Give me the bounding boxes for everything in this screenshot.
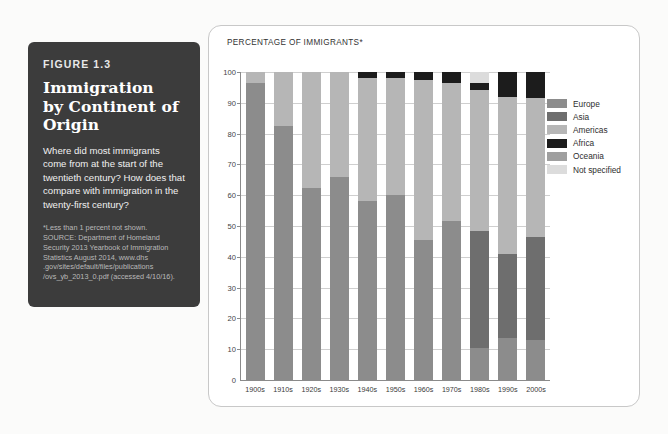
bar-segment-2000s-asia[interactable] [526, 237, 545, 340]
bar-segment-1910s-americas[interactable] [274, 72, 293, 126]
y-tickmark-20 [237, 318, 241, 319]
bar-1970s[interactable] [442, 72, 461, 380]
bar-segment-1960s-americas[interactable] [414, 80, 433, 240]
figure-description: Where did most immigrants come from at t… [43, 144, 185, 212]
bar-segment-1940s-americas[interactable] [358, 78, 377, 201]
y-axis-title: PERCENTAGE OF IMMIGRANTS* [227, 38, 363, 49]
legend-label-not-specified: Not specified [573, 165, 621, 175]
bar-segment-1930s-americas[interactable] [330, 72, 349, 177]
bar-1980s[interactable] [470, 72, 489, 380]
bar-segment-2000s-europe[interactable] [526, 340, 545, 380]
y-tick-label-0: 0 [232, 376, 236, 385]
bar-segment-1940s-europe[interactable] [358, 201, 377, 380]
figure-source-line-4: .gov/sites/default/files/publications [43, 262, 185, 272]
bar-segment-1930s-europe[interactable] [330, 177, 349, 380]
y-tickmark-90 [237, 103, 241, 104]
y-tickmark-30 [237, 288, 241, 289]
bar-segment-1960s-africa[interactable] [414, 72, 433, 80]
legend-swatch-africa [547, 139, 567, 148]
bar-segment-1900s-americas[interactable] [246, 72, 265, 83]
y-tick-label-40: 40 [228, 252, 236, 261]
bar-segment-1920s-europe[interactable] [302, 188, 321, 381]
y-tick-label-30: 30 [228, 283, 236, 292]
bar-1940s[interactable] [358, 72, 377, 380]
figure-title-line-0: Immigration [43, 79, 185, 98]
bar-1930s[interactable] [330, 72, 349, 380]
chart-card: PERCENTAGE OF IMMIGRANTS* 10203040506070… [208, 25, 640, 407]
bar-1900s[interactable] [246, 72, 265, 380]
bar-2000s[interactable] [526, 72, 545, 380]
figure-root: FIGURE 1.3 Immigrationby Continent ofOri… [0, 0, 668, 434]
y-tick-label-90: 90 [228, 98, 236, 107]
bar-segment-1980s-americas[interactable] [470, 90, 489, 230]
legend-item-europe[interactable]: Europe [547, 97, 621, 110]
bar-segment-1990s-asia[interactable] [498, 254, 517, 339]
bar-segment-1970s-europe[interactable] [442, 221, 461, 380]
legend-item-africa[interactable]: Africa [547, 137, 621, 150]
legend-label-oceania: Oceania [573, 151, 604, 161]
bar-segment-2000s-africa[interactable] [526, 72, 545, 98]
legend-label-americas: Americas [573, 125, 608, 135]
figure-source-line-5: /ovs_yb_2013_0.pdf (accessed 4/10/16). [43, 272, 185, 282]
y-tickmark-100 [237, 72, 241, 73]
bar-segment-1950s-europe[interactable] [386, 195, 405, 380]
y-tick-label-100: 100 [223, 68, 236, 77]
legend-swatch-not-specified [547, 165, 567, 174]
bar-segment-1920s-americas[interactable] [302, 72, 321, 188]
bar-segment-1980s-asia[interactable] [470, 231, 489, 348]
bar-1990s[interactable] [498, 72, 517, 380]
y-tickmark-60 [237, 195, 241, 196]
figure-title: Immigrationby Continent ofOrigin [43, 79, 185, 135]
figure-number: FIGURE 1.3 [43, 58, 185, 70]
y-tickmark-40 [237, 257, 241, 258]
y-tickmark-50 [237, 226, 241, 227]
legend-item-asia[interactable]: Asia [547, 110, 621, 123]
y-tick-label-10: 10 [228, 345, 236, 354]
bar-segment-2000s-americas[interactable] [526, 98, 545, 237]
y-tickmark-70 [237, 164, 241, 165]
bar-segment-1980s-not-specified[interactable] [470, 72, 489, 83]
bar-1920s[interactable] [302, 72, 321, 380]
bar-segment-1970s-americas[interactable] [442, 83, 461, 222]
legend-item-oceania[interactable]: Oceania [547, 150, 621, 163]
y-tick-label-50: 50 [228, 222, 236, 231]
figure-source-line-2: Security 2013 Yearbook of Immigration [43, 243, 185, 253]
bar-segment-1950s-africa[interactable] [386, 72, 405, 78]
figure-caption-card: FIGURE 1.3 Immigrationby Continent ofOri… [28, 42, 200, 307]
bar-1960s[interactable] [414, 72, 433, 380]
legend-label-asia: Asia [573, 112, 589, 122]
bar-segment-1990s-europe[interactable] [498, 338, 517, 380]
plot-area: 1020304050607080901000 1900s1910s1920s19… [241, 72, 550, 380]
figure-source-note: *Less than 1 percent not shown.SOURCE: D… [43, 223, 185, 281]
bar-segment-1990s-americas[interactable] [498, 97, 517, 254]
figure-source-line-1: SOURCE: Department of Homeland [43, 233, 185, 243]
y-tick-label-20: 20 [228, 314, 236, 323]
figure-title-line-1: by Continent of [43, 98, 185, 117]
legend-swatch-europe [547, 99, 567, 108]
legend-swatch-oceania [547, 152, 567, 161]
legend-item-not-specified[interactable]: Not specified [547, 163, 621, 176]
y-tick-label-70: 70 [228, 160, 236, 169]
figure-source-line-3: Statistics August 2014, www.dhs [43, 253, 185, 263]
bar-segment-1940s-africa[interactable] [358, 72, 377, 78]
legend-label-europe: Europe [573, 99, 600, 109]
bar-1950s[interactable] [386, 72, 405, 380]
legend-label-africa: Africa [573, 138, 594, 148]
bar-segment-1970s-africa[interactable] [442, 72, 461, 83]
bar-segment-1960s-europe[interactable] [414, 240, 433, 380]
chart-legend: EuropeAsiaAmericasAfricaOceaniaNot speci… [547, 97, 621, 176]
bar-segment-1950s-americas[interactable] [386, 78, 405, 195]
bar-segment-1990s-africa[interactable] [498, 72, 517, 97]
y-tickmark-80 [237, 134, 241, 135]
figure-title-line-2: Origin [43, 116, 185, 135]
bar-segment-1980s-europe[interactable] [470, 348, 489, 380]
bar-segment-1900s-europe[interactable] [246, 83, 265, 380]
bar-segment-1910s-europe[interactable] [274, 126, 293, 380]
legend-item-americas[interactable]: Americas [547, 123, 621, 136]
legend-swatch-americas [547, 125, 567, 134]
figure-source-line-0: *Less than 1 percent not shown. [43, 223, 185, 233]
legend-swatch-asia [547, 112, 567, 121]
bar-1910s[interactable] [274, 72, 293, 380]
y-tick-label-80: 80 [228, 129, 236, 138]
bar-segment-1980s-africa[interactable] [470, 83, 489, 91]
